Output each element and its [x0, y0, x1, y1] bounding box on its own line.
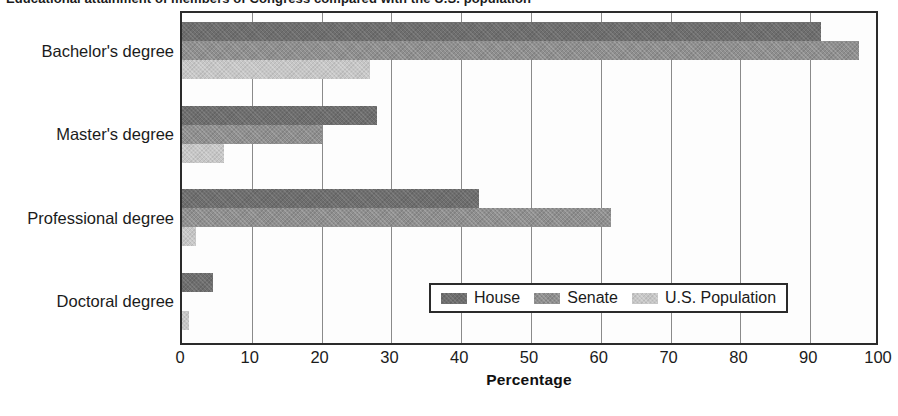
x-tick-label: 30 [380, 348, 398, 367]
bar-senate [182, 208, 611, 227]
category-label: Bachelor's degree [0, 42, 174, 61]
x-tick-label: 60 [590, 348, 608, 367]
bar-uspop [182, 227, 196, 246]
legend-swatch-icon [441, 293, 467, 304]
x-tick-label: 0 [175, 348, 184, 367]
x-tick-label: 50 [520, 348, 538, 367]
bar-house [182, 22, 821, 41]
bar-uspop [182, 60, 370, 79]
x-tick-label: 10 [241, 348, 259, 367]
legend-label: U.S. Population [665, 289, 776, 307]
x-tick-label: 20 [310, 348, 328, 367]
category-axis-labels: Bachelor's degreeMaster's degreeProfessi… [0, 11, 174, 345]
legend-item: House [441, 289, 520, 307]
x-axis-title: Percentage [180, 371, 878, 389]
bar-house [182, 189, 479, 208]
legend-swatch-icon [534, 293, 560, 304]
legend-item: Senate [534, 289, 618, 307]
bar-house [182, 273, 213, 292]
bar-senate [182, 41, 859, 60]
bar-senate [182, 125, 322, 144]
bar-group [182, 13, 876, 97]
bar-group [182, 97, 876, 181]
bar-group [182, 180, 876, 264]
legend-label: Senate [567, 289, 618, 307]
legend-item: U.S. Population [632, 289, 776, 307]
chart-legend: HouseSenateU.S. Population [429, 283, 788, 313]
bar-uspop [182, 144, 224, 163]
x-tick-label: 100 [864, 348, 892, 367]
bar-uspop [182, 311, 189, 330]
category-label: Doctoral degree [0, 292, 174, 311]
x-tick-label: 90 [799, 348, 817, 367]
category-label: Professional degree [0, 209, 174, 228]
x-tick-label: 70 [659, 348, 677, 367]
category-label: Master's degree [0, 125, 174, 144]
x-tick-label: 40 [450, 348, 468, 367]
legend-swatch-icon [632, 293, 658, 304]
bar-chart: Bachelor's degreeMaster's degreeProfessi… [0, 0, 898, 416]
legend-label: House [474, 289, 520, 307]
bar-house [182, 106, 377, 125]
x-tick-label: 80 [729, 348, 747, 367]
